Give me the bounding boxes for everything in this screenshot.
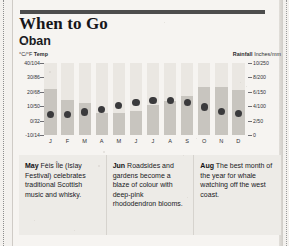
- temp-axis-tick-mark: [40, 92, 44, 93]
- rainfall-bar: [96, 113, 108, 135]
- rainfall-axis-label: Rainfall: [233, 51, 253, 57]
- paper-grain-speck: [187, 197, 188, 198]
- rainfall-bar: [147, 105, 159, 135]
- chart-column: [96, 63, 108, 135]
- note-month: Aug: [200, 162, 214, 169]
- note-item: Aug The best month of the year for whale…: [194, 155, 281, 235]
- rainfall-bar: [198, 87, 210, 135]
- temp-axis-label: Temp: [34, 51, 48, 57]
- rainfall-axis-units: Inches/mm: [254, 51, 281, 57]
- chart-column: [215, 63, 227, 135]
- paper-grain-speck: [196, 138, 197, 139]
- chart-column: [232, 63, 244, 135]
- temp-axis-tick-label: 30/86: [27, 74, 40, 80]
- month-label: A: [162, 138, 179, 144]
- temp-axis-units: °C/°F: [19, 51, 32, 57]
- rainfall-axis-caption: Rainfall Inches/mm: [233, 51, 281, 57]
- temperature-dot: [201, 103, 208, 110]
- rainfall-axis-tick-mark: [248, 106, 252, 107]
- temperature-dot: [47, 111, 54, 118]
- month-label: M: [110, 138, 127, 144]
- month-label: A: [93, 138, 110, 144]
- chart-column: [61, 63, 73, 135]
- temperature-dot: [132, 99, 139, 106]
- chart-column: [44, 63, 56, 135]
- month-label: J: [127, 138, 144, 144]
- temp-axis-tick-mark: [40, 121, 44, 122]
- rainfall-bar: [130, 111, 142, 135]
- note-item: May Fèis Île (Islay Festival) celebrates…: [19, 155, 107, 235]
- chart-column: [198, 63, 210, 135]
- temperature-dot: [81, 108, 88, 115]
- rainfall-axis-tick-mark: [248, 77, 252, 78]
- note-month: May: [25, 162, 39, 169]
- rainfall-bar: [164, 101, 176, 135]
- temp-axis-tick-mark: [40, 135, 44, 136]
- temperature-dot: [167, 97, 174, 104]
- paper-grain-speck: [223, 141, 224, 142]
- temp-axis-tick-mark: [40, 106, 44, 107]
- month-label: N: [213, 138, 230, 144]
- month-label: M: [76, 138, 93, 144]
- page-root: When to Go Oban °C/°F Temp Rainfall Inch…: [0, 0, 289, 246]
- temp-axis-tick-label: 40/104: [24, 60, 40, 66]
- temp-axis-caption: °C/°F Temp: [19, 51, 48, 57]
- rainfall-axis-tick-mark: [248, 92, 252, 93]
- rainfall-axis-tick-mark: [248, 121, 252, 122]
- temp-axis-tick-mark: [40, 63, 44, 64]
- temperature-dot: [64, 111, 71, 118]
- note-month: Jun: [113, 162, 125, 169]
- temp-axis-tick-label: 10/50: [27, 103, 40, 109]
- rainfall-axis-tick-mark: [248, 135, 252, 136]
- month-label: S: [179, 138, 196, 144]
- temperature-dot: [149, 97, 156, 104]
- rainfall-axis-tick-mark: [248, 63, 252, 64]
- month-label: J: [145, 138, 162, 144]
- page-title: When to Go: [19, 14, 108, 34]
- month-label: D: [230, 138, 247, 144]
- crop-mark-left: [3, 0, 4, 246]
- paper-grain-speck: [98, 165, 100, 167]
- temp-axis-tick-label: -10/14: [25, 132, 40, 138]
- paper-grain-speck: [183, 155, 184, 156]
- rainfall-axis-tick-label: 6/150: [253, 89, 266, 95]
- temperature-dot: [184, 99, 191, 106]
- crop-mark-right: [286, 0, 287, 246]
- rainfall-axis-tick-label: 8/200: [253, 74, 266, 80]
- rainfall-axis-tick-label: 2/50: [253, 118, 263, 124]
- month-label: O: [196, 138, 213, 144]
- chart-column: [79, 63, 91, 135]
- climate-chart: 40/10430/8620/6810/500/32-10/1410/2508/2…: [19, 60, 281, 146]
- paper-grain-speck: [25, 42, 27, 44]
- temp-axis-tick-mark: [40, 77, 44, 78]
- chart-column: [113, 63, 125, 135]
- chart-plot-area: 40/10430/8620/6810/500/32-10/1410/2508/2…: [42, 63, 247, 135]
- place-name: Oban: [19, 34, 51, 48]
- rainfall-axis-tick-label: 4/100: [253, 103, 266, 109]
- month-label: F: [59, 138, 76, 144]
- temperature-dot: [235, 110, 242, 117]
- paper-grain-speck: [45, 164, 46, 165]
- rainfall-axis-tick-label: 0: [253, 132, 256, 138]
- rainfall-bar: [113, 113, 125, 135]
- monthly-notes-panel: May Fèis Île (Islay Festival) celebrates…: [19, 155, 281, 235]
- note-item: Jun Roadsides and gardens become a blaze…: [107, 155, 195, 235]
- rainfall-axis-tick-label: 10/250: [253, 60, 269, 66]
- paper-grain-speck: [34, 220, 35, 221]
- paper-grain-speck: [227, 175, 229, 177]
- temperature-dot: [218, 108, 225, 115]
- temp-axis-tick-label: 20/68: [27, 89, 40, 95]
- month-label: J: [42, 138, 59, 144]
- temp-axis-tick-label: 0/32: [30, 118, 40, 124]
- page-edge-line: [12, 0, 13, 246]
